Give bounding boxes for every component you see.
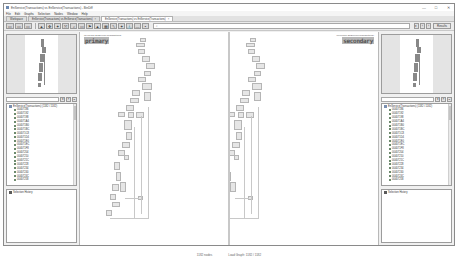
graph-node[interactable]	[118, 112, 125, 117]
graph-node[interactable]	[246, 112, 254, 118]
tab-diff-2[interactable]: EnService(Transactions) vs EnService(Tra…	[101, 16, 173, 21]
select-successors-button[interactable]: ▲	[94, 23, 101, 29]
graph-node[interactable]	[254, 92, 261, 101]
sync-views-button[interactable]: ▭	[6, 23, 14, 29]
graph-node[interactable]	[136, 112, 144, 118]
graph-node[interactable]	[252, 83, 262, 90]
tree-scrollbar[interactable]	[73, 104, 76, 185]
filter-dropdown-button[interactable]: ▾	[60, 97, 65, 102]
graph-node[interactable]	[142, 83, 152, 90]
graph-node[interactable]	[230, 112, 235, 117]
graph-node[interactable]	[116, 172, 121, 181]
single-view-button[interactable]: ▭	[24, 23, 32, 29]
graph-node[interactable]	[124, 120, 132, 130]
proximity-button[interactable]: ⤧	[62, 23, 69, 29]
primary-overview-map[interactable]	[6, 34, 77, 94]
tree-scrollbar[interactable]	[448, 104, 451, 185]
graph-node[interactable]	[114, 162, 120, 170]
menu-nodes[interactable]: Nodes	[54, 12, 63, 16]
primary-node-tree[interactable]: EnService(Transactions) (1182 / 1182) 00…	[6, 103, 77, 186]
graph-node[interactable]	[236, 105, 244, 111]
graph-node[interactable]	[248, 49, 255, 54]
filter-clear-button[interactable]: ×	[66, 97, 71, 102]
delete-button[interactable]: —	[134, 23, 141, 29]
graph-node[interactable]	[136, 43, 145, 47]
screenshot-button[interactable]: ▪	[142, 23, 149, 29]
invert-selection-button[interactable]: ✎	[110, 23, 117, 29]
graph-node[interactable]	[236, 132, 242, 140]
primary-filter-input[interactable]	[6, 97, 59, 102]
filter-options-button[interactable]: ≡	[72, 97, 77, 102]
graph-node[interactable]	[128, 112, 134, 118]
graph-node[interactable]	[250, 38, 256, 42]
tree-item[interactable]: 00407258	[384, 178, 449, 182]
secondary-overview-map[interactable]	[381, 34, 452, 94]
graph-node[interactable]	[144, 92, 151, 101]
menu-edit[interactable]: Edit	[15, 12, 20, 16]
menu-graphs[interactable]: Graphs	[24, 12, 34, 16]
graph-node[interactable]	[146, 63, 155, 69]
tree-item[interactable]: 00407258	[9, 178, 74, 182]
graph-node[interactable]	[144, 71, 151, 76]
secondary-node-tree[interactable]: EnService(Transactions) (1182 / 1182) 00…	[381, 103, 452, 186]
graph-node[interactable]	[132, 90, 140, 96]
menu-window[interactable]: Window	[67, 12, 78, 16]
graph-node[interactable]	[242, 90, 250, 96]
graph-node[interactable]	[234, 120, 242, 130]
select-neighbours-button[interactable]: ▦	[102, 23, 109, 29]
filter-dropdown-button[interactable]: ▾	[435, 97, 440, 102]
close-tab-icon[interactable]: ×	[168, 18, 170, 21]
graph-node[interactable]	[122, 142, 130, 148]
select-ancestors-button[interactable]: ⚑	[86, 23, 93, 29]
results-button[interactable]: Results	[433, 23, 451, 29]
graph-node[interactable]	[252, 56, 260, 62]
dual-view-button[interactable]: ▭	[15, 23, 23, 29]
zoom-fit-button[interactable]: ⌕	[70, 23, 77, 29]
secondary-graph-view[interactable]: 00407186 EnService(Transactions) seconda…	[230, 32, 378, 245]
graph-node[interactable]	[230, 182, 236, 192]
graph-node[interactable]	[120, 182, 126, 192]
graph-node[interactable]	[238, 112, 244, 118]
menu-help[interactable]: Help	[82, 12, 88, 16]
circular-layout-button[interactable]: ✦	[54, 23, 61, 29]
search-prev-button[interactable]: ‹	[420, 23, 425, 29]
minimize-button[interactable]: —	[418, 5, 430, 10]
collapse-button[interactable]: ⚓	[126, 23, 133, 29]
tab-diff-1[interactable]: EnService(Transactions) vs EnService(Tra…	[28, 16, 100, 21]
tab-workspace[interactable]: Workspace	[6, 16, 27, 21]
graph-node[interactable]	[126, 105, 134, 111]
graph-node[interactable]	[138, 77, 146, 82]
search-input[interactable]: ⌕	[153, 23, 410, 29]
graph-node[interactable]	[124, 155, 129, 160]
graph-node[interactable]	[106, 210, 112, 216]
zoom-selected-button[interactable]: ▭	[78, 23, 85, 29]
graph-node[interactable]	[138, 49, 145, 54]
primary-graph-view[interactable]: 00407186 EnService(Transactions) primary	[80, 32, 230, 245]
search-dropdown-button[interactable]: ▾	[414, 23, 419, 29]
graph-node[interactable]	[254, 71, 261, 76]
menu-selection[interactable]: Selection	[38, 12, 50, 16]
graph-node[interactable]	[112, 202, 120, 207]
hierarchic-layout-button[interactable]: ▲	[38, 23, 45, 29]
graph-node[interactable]	[248, 77, 256, 82]
menu-file[interactable]: File	[6, 12, 11, 16]
maximize-button[interactable]: □	[430, 5, 442, 10]
close-tab-icon[interactable]: ×	[95, 18, 97, 21]
graph-node[interactable]	[130, 98, 139, 103]
search-next-button[interactable]: ›	[426, 23, 431, 29]
graph-node[interactable]	[110, 194, 116, 200]
graph-node[interactable]	[142, 56, 150, 62]
scrollbar-thumb[interactable]	[74, 106, 76, 120]
graph-node[interactable]	[126, 132, 132, 140]
graph-node[interactable]	[256, 63, 265, 69]
close-button[interactable]: ✕	[442, 5, 454, 10]
graph-node[interactable]	[140, 38, 146, 42]
orthogonal-layout-button[interactable]: ✥	[46, 23, 53, 29]
graph-node[interactable]	[234, 155, 239, 160]
scrollbar-thumb[interactable]	[449, 106, 451, 120]
secondary-filter-input[interactable]	[381, 97, 434, 102]
graph-node[interactable]	[232, 142, 240, 148]
filter-clear-button[interactable]: ×	[441, 97, 446, 102]
filter-options-button[interactable]: ≡	[447, 97, 452, 102]
expand-button[interactable]: ✦	[118, 23, 125, 29]
